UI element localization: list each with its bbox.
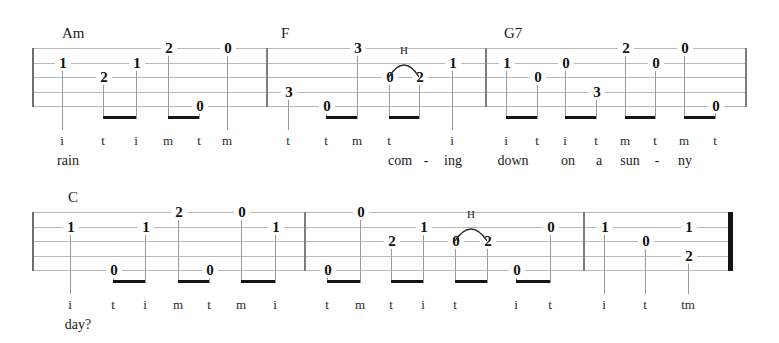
finger-indication: t [197,298,221,311]
fret-number: 2 [618,41,634,56]
note-stem [227,52,228,130]
beam [389,116,419,119]
finger-indication: t [525,134,549,147]
note-stem [452,67,453,131]
staff-line-string-5 [32,270,733,271]
finger-indication: t [443,298,467,311]
finger-indication: i [592,298,616,311]
staff-line-string-4 [32,256,733,257]
note-stem [565,67,566,120]
note-stem [168,52,169,119]
finger-indication: i [263,298,287,311]
note-stem [391,245,392,283]
finger-indication: m [166,298,190,311]
lyric-syllable: rain [38,154,98,168]
fret-number: 3 [589,85,605,100]
fret-number: 1 [63,220,79,235]
finger-indication: t [315,298,339,311]
lyric-syllable: ing [423,154,483,168]
fret-number: 0 [530,70,546,85]
note-stem [145,231,146,284]
beam [506,116,537,119]
finger-indication: t [91,134,115,147]
fret-number: 1 [55,56,71,71]
finger-indication: t [584,134,608,147]
hammer-on-arc [455,221,487,243]
finger-indication: m [215,134,239,147]
lyric-syllable: day? [48,318,108,332]
note-stem [178,216,179,283]
fret-number: 0 [677,41,693,56]
chord-symbol: F [281,26,289,41]
barline-start [32,48,34,107]
fret-number: 1 [416,220,432,235]
finger-indication: m [672,134,696,147]
fret-number: 1 [129,56,145,71]
finger-indication: m [156,134,180,147]
fret-number: 0 [202,263,218,278]
fret-number: 1 [681,220,697,235]
beam [565,116,596,119]
finger-indication: i [50,134,74,147]
fret-number: 2 [384,234,400,249]
note-stem [625,52,626,119]
finger-indication: m [613,134,637,147]
chord-symbol: Am [62,26,85,41]
note-stem [103,81,104,119]
finger-indication: m [348,298,372,311]
finger-indication: m [229,298,253,311]
finger-indication: i [124,134,148,147]
fret-number: 0 [220,41,236,56]
fret-number: 1 [597,220,613,235]
barline-1 [266,48,268,107]
finger-indication: i [494,134,518,147]
note-stem [537,81,538,119]
note-stem [487,245,488,283]
note-stem [604,231,605,295]
final-barline [728,212,733,271]
fret-number: 0 [509,263,525,278]
note-stem [655,67,656,120]
note-stem [506,67,507,120]
fret-number: 1 [499,56,515,71]
fret-number: 0 [192,99,208,114]
note-stem [389,81,390,119]
fret-number: 0 [708,99,724,114]
fret-number: 0 [543,220,559,235]
beam [391,280,423,283]
lyric-syllable: ny [655,154,715,168]
note-stem [455,245,456,283]
beam [178,280,209,283]
fret-number: 2 [161,41,177,56]
finger-indication: t [643,134,667,147]
finger-indication: t [633,298,657,311]
staff-line-string-1 [32,48,747,49]
finger-indication: i [133,298,157,311]
finger-indication: t [101,298,125,311]
fret-number: 2 [96,70,112,85]
beam [625,116,655,119]
note-stem [550,231,551,284]
note-stem [688,260,689,295]
finger-indication: t [538,298,562,311]
fret-number: 0 [234,205,250,220]
note-stem [288,96,289,131]
barline-start [32,212,34,271]
fret-number: 1 [268,220,284,235]
note-stem [70,231,71,295]
beam [326,116,357,119]
finger-indication: i [58,298,82,311]
beam [684,116,715,119]
fret-number: 0 [638,234,654,249]
finger-indication: i [553,134,577,147]
finger-indication: i [504,298,528,311]
finger-indication: m [345,134,369,147]
fret-number: 0 [353,205,369,220]
chord-symbol: C [68,190,78,205]
fret-number: 1 [445,56,461,71]
tablature-canvas: Am121200itimtmrainF303021Httmticom-ingG7… [0,0,779,343]
note-stem [357,52,358,119]
note-stem [684,52,685,119]
beam [168,116,199,119]
fret-number: 2 [681,249,697,264]
